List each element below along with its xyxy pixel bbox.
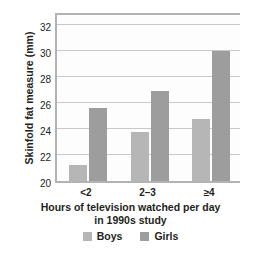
bar-chart-figure: Skinfold fat measure (mm) 20222426283032… <box>0 0 261 260</box>
y-axis-tick-label: 32 <box>29 22 51 33</box>
y-axis-tick-label: 20 <box>29 178 51 189</box>
chart-legend: BoysGirls <box>0 230 261 242</box>
bar-boys-0 <box>69 165 87 181</box>
legend-item-boys: Boys <box>83 230 123 242</box>
x-axis-tick-label: <2 <box>56 187 116 198</box>
x-axis-title-line1: Hours of television watched per day <box>10 201 251 214</box>
legend-label: Boys <box>97 230 123 242</box>
y-axis-tick-label: 30 <box>29 48 51 59</box>
bar-boys-1 <box>131 132 149 181</box>
gridline <box>57 24 240 25</box>
x-axis-tick-label: 2–3 <box>118 187 178 198</box>
legend-label: Girls <box>154 230 178 242</box>
legend-swatch-girls <box>140 232 149 241</box>
x-axis-title-line2: in 1990s study <box>10 214 251 227</box>
bar-boys-2 <box>192 119 210 181</box>
y-axis-tick-label: 26 <box>29 100 51 111</box>
plot-inner <box>57 15 240 181</box>
legend-swatch-boys <box>83 232 92 241</box>
y-axis-tick-label: 24 <box>29 126 51 137</box>
legend-item-girls: Girls <box>140 230 178 242</box>
plot-area <box>55 13 240 183</box>
x-axis-title: Hours of television watched per day in 1… <box>10 201 251 227</box>
bar-girls-2 <box>212 51 230 181</box>
x-axis-tick-label: ≥4 <box>179 187 239 198</box>
y-axis-tick-label: 22 <box>29 152 51 163</box>
y-axis-tick-label: 28 <box>29 74 51 85</box>
bar-girls-0 <box>89 108 107 181</box>
bar-girls-1 <box>151 91 169 181</box>
